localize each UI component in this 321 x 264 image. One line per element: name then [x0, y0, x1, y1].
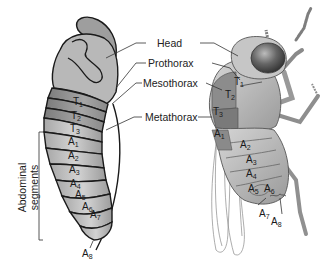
left-seg-A7: A7	[90, 210, 101, 221]
left-seg-A1: A1	[68, 137, 79, 148]
right-seg-A6: A6	[264, 184, 275, 195]
left-seg-T3: T3	[70, 124, 80, 135]
embryo-illustration	[44, 17, 120, 250]
left-seg-A8: A8	[82, 249, 93, 260]
label-head: Head	[157, 38, 182, 49]
right-seg-A8: A8	[271, 217, 282, 228]
right-seg-A5: A5	[248, 184, 259, 195]
right-seg-A4: A4	[246, 169, 257, 180]
right-seg-T1: T1	[234, 77, 244, 88]
right-seg-A1: A1	[214, 129, 225, 140]
right-seg-T2: T2	[225, 90, 235, 101]
right-seg-T3: T3	[213, 107, 223, 118]
label-metathorax: Metathorax	[145, 112, 198, 123]
label-mesothorax: Mesothorax	[143, 78, 198, 89]
label-abdominal-segments: Abdominal segments	[17, 153, 40, 223]
label-prothorax: Prothorax	[148, 58, 194, 69]
insect-segmentation-diagram: Head Prothorax Mesothorax Metathorax Abd…	[0, 0, 321, 264]
left-seg-T1: T1	[73, 97, 83, 108]
left-seg-T2: T2	[71, 111, 81, 122]
right-seg-A3: A3	[246, 155, 257, 166]
left-seg-A2: A2	[68, 151, 79, 162]
right-seg-A2: A2	[240, 140, 251, 151]
right-seg-A7: A7	[259, 209, 270, 220]
left-seg-A5: A5	[75, 190, 86, 201]
left-seg-A3: A3	[69, 165, 80, 176]
